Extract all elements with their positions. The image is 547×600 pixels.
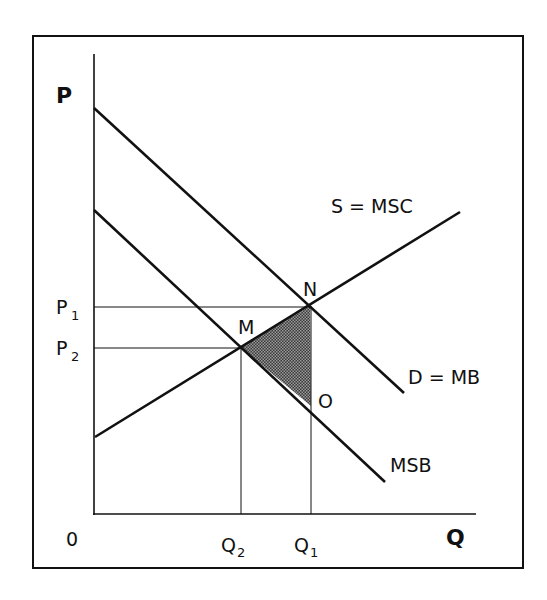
- supply-msc-label: S = MSC: [331, 195, 413, 217]
- svg-text:1: 1: [71, 308, 79, 323]
- svg-text:Q: Q: [221, 534, 236, 556]
- svg-text:P: P: [56, 337, 67, 359]
- svg-text:2: 2: [71, 349, 79, 364]
- q1-label: Q 1: [294, 534, 318, 560]
- svg-text:2: 2: [237, 545, 245, 560]
- externality-diagram: P Q 0 P 1 P 2 Q 2 Q 1 S = MSC D = MB MSB…: [0, 0, 547, 600]
- svg-text:1: 1: [310, 545, 318, 560]
- point-m-label: M: [238, 316, 254, 338]
- svg-text:P: P: [56, 296, 67, 318]
- demand-mb-label: D = MB: [408, 366, 480, 388]
- point-o-label: O: [318, 390, 333, 412]
- q2-label: Q 2: [221, 534, 245, 560]
- svg-text:Q: Q: [294, 534, 309, 556]
- y-axis-label: P: [56, 83, 72, 108]
- diagram-frame: [33, 36, 523, 568]
- msb-curve: [94, 210, 385, 482]
- point-n-label: N: [303, 278, 317, 300]
- x-axis-label: Q: [446, 525, 465, 550]
- p2-label: P 2: [56, 337, 79, 364]
- origin-label: 0: [66, 528, 78, 550]
- p1-label: P 1: [56, 296, 79, 323]
- msb-label: MSB: [390, 454, 432, 476]
- supply-msc-curve: [95, 212, 460, 437]
